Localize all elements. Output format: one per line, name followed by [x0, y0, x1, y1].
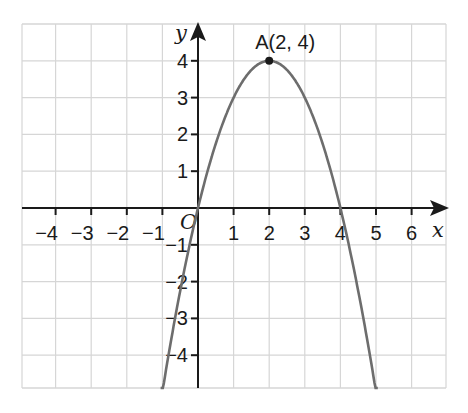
y-tick-label: 2 [177, 123, 188, 145]
vertex-annotation: A(2, 4) [255, 31, 315, 53]
parabola-chart: −4−3−2−11234564321−1−2−3−4 x y O A(2, 4) [0, 0, 468, 413]
x-tick-label: −2 [106, 222, 129, 244]
y-tick-label: 1 [177, 160, 188, 182]
x-tick-label: −4 [35, 222, 58, 244]
axes [22, 22, 449, 388]
x-tick-label: −1 [142, 222, 165, 244]
x-tick-label: 1 [228, 222, 239, 244]
x-tick-label: 6 [406, 222, 417, 244]
x-tick-label: −3 [71, 222, 94, 244]
vertex-point [265, 57, 273, 65]
y-axis-label: y [174, 21, 188, 45]
grid [22, 24, 446, 388]
x-axis-label: x [432, 218, 444, 242]
y-tick-label: 4 [177, 50, 188, 72]
x-tick-label: 3 [299, 222, 310, 244]
x-tick-label: 5 [370, 222, 381, 244]
y-tick-label: −1 [165, 234, 188, 256]
y-tick-label: 3 [177, 87, 188, 109]
x-tick-label: 2 [264, 222, 275, 244]
